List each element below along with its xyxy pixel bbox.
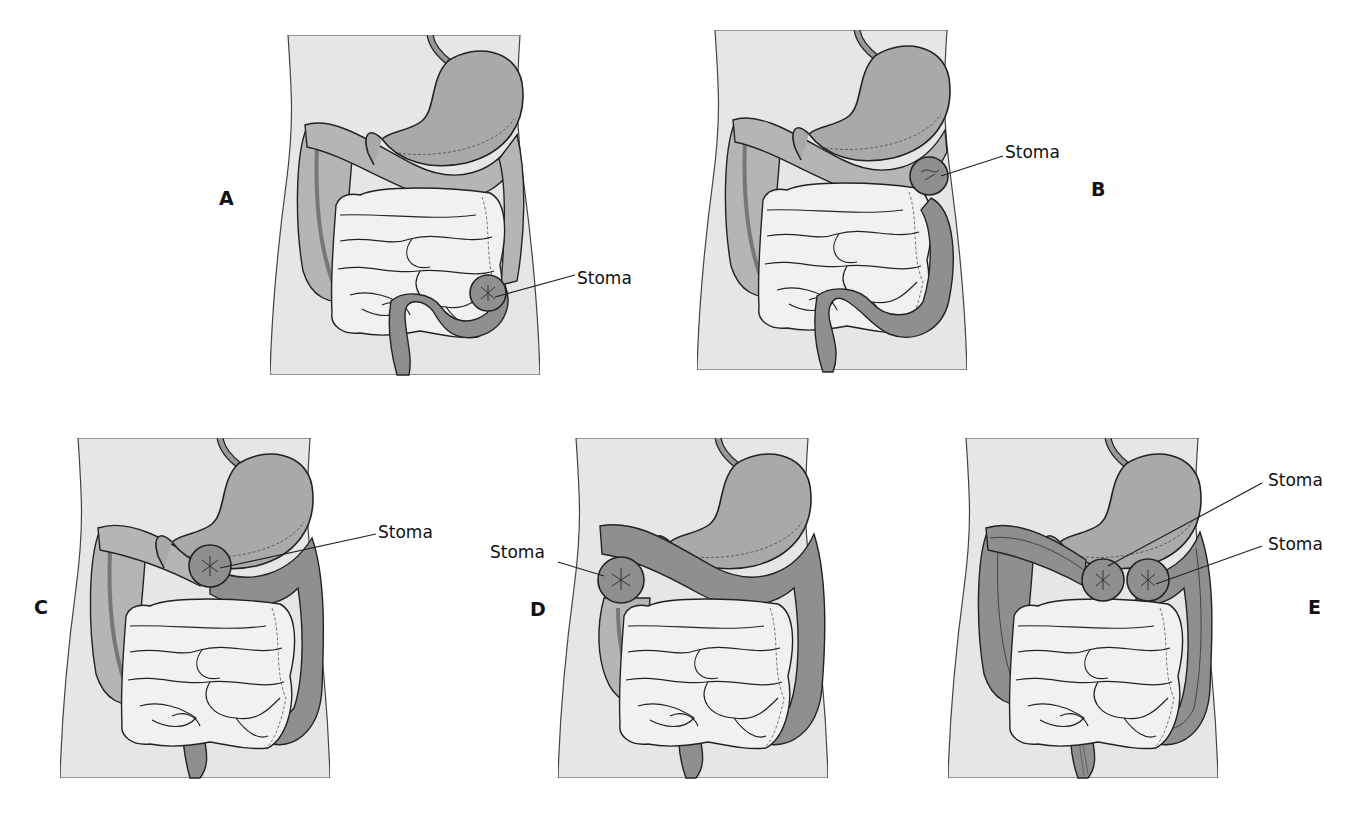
panel-label-e: E	[1308, 596, 1321, 618]
stoma-label: Stoma	[577, 268, 632, 288]
panel-label-a: A	[219, 187, 234, 209]
panel-a: A Stoma	[255, 35, 555, 380]
stoma-label: Stoma	[378, 522, 433, 542]
panel-b: Stoma B	[685, 30, 985, 375]
stoma-label: Stoma	[1005, 142, 1060, 162]
abdomen-illustration-b	[685, 30, 985, 375]
stoma-label-lower: Stoma	[1268, 534, 1323, 554]
stoma-label: Stoma	[490, 542, 545, 562]
panel-label-b: B	[1091, 178, 1105, 200]
abdomen-illustration-a	[255, 35, 555, 380]
panel-label-d: D	[530, 598, 546, 620]
panel-c: Stoma C	[70, 438, 370, 783]
panel-e: Stoma Stoma E	[960, 438, 1260, 783]
stoma-label-upper: Stoma	[1268, 470, 1323, 490]
abdomen-illustration-c	[70, 438, 370, 783]
panel-label-c: C	[34, 596, 48, 618]
abdomen-illustration-d	[560, 438, 860, 783]
abdomen-illustration-e	[960, 438, 1260, 783]
panel-d: Stoma D	[560, 438, 860, 783]
